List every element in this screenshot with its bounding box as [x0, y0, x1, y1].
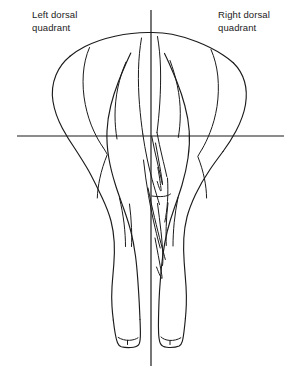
tail-strand-outer-right [165, 178, 168, 222]
figure-root: Left dorsal quadrant Right dorsal quadra… [0, 0, 301, 375]
croup-outline-left [70, 32, 151, 56]
right-hindlimb-inner-outline [159, 53, 190, 319]
label-right-dorsal-quadrant: Right dorsal quadrant [218, 9, 270, 34]
right-hip-crease [202, 50, 218, 149]
left-hip-crease [83, 48, 103, 148]
left-hindlimb-inner-outline [107, 53, 140, 320]
tail-strand-1 [152, 137, 163, 185]
left-thigh-crease [115, 62, 126, 139]
right-thigh-crease [170, 61, 180, 138]
tail-right-edge [157, 37, 161, 133]
left-hoof-outline [113, 320, 140, 348]
croup-outline-right [151, 32, 234, 63]
horse-body-outline [52, 32, 246, 347]
quadrant-axes [17, 10, 284, 366]
right-rump-outline [223, 63, 246, 152]
right-hoof-outline [158, 319, 185, 348]
horse-hindquarters-line-drawing [0, 0, 301, 375]
label-left-dorsal-quadrant: Left dorsal quadrant [32, 9, 77, 34]
right-hoof-coronet-band [161, 337, 181, 340]
right-hindlimb-outer-outline [184, 152, 223, 319]
left-hock-line [130, 204, 132, 247]
tail-strand-2 [156, 143, 163, 184]
right-semitendinosus-line [198, 149, 207, 198]
tail-left-edge [138, 38, 142, 134]
left-hindlimb-outer-outline [76, 150, 115, 321]
left-hoof-coronet-band [118, 338, 138, 341]
